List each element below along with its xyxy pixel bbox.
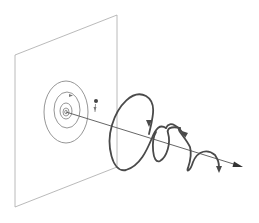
helix-diagram bbox=[0, 0, 259, 223]
axis-arrowhead-icon bbox=[233, 162, 244, 168]
particle-dot bbox=[94, 99, 98, 103]
plane bbox=[15, 15, 117, 207]
helical-path bbox=[110, 94, 219, 170]
dot-arrow-icon bbox=[94, 107, 97, 111]
diagram-canvas bbox=[0, 0, 259, 223]
spiral-arrow-icon bbox=[69, 94, 73, 97]
helix-arrow-3-icon bbox=[216, 166, 222, 173]
